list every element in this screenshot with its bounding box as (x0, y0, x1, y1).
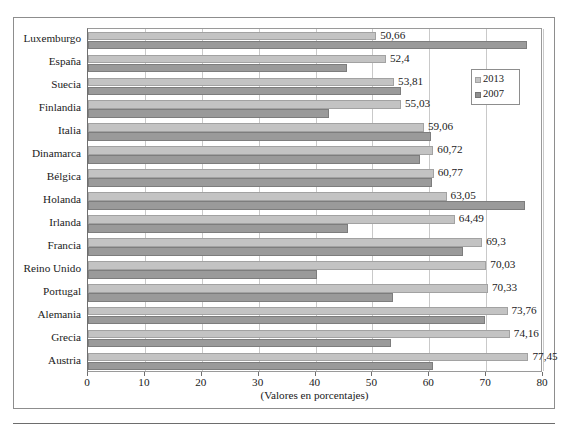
category-label: Finlandia (39, 102, 81, 113)
bar-2013 (88, 238, 482, 247)
bar-2013 (88, 169, 434, 178)
category-label: Portugal (43, 286, 81, 297)
gridline (543, 29, 544, 371)
category-label: España (49, 56, 81, 67)
bar-group: 59,06 (88, 121, 541, 144)
x-tick-label: 10 (138, 377, 149, 388)
legend-item-2013: 2013 (475, 72, 519, 87)
caption-divider (13, 423, 555, 424)
category-axis-labels: LuxemburgoEspañaSueciaFinlandiaItaliaDin… (0, 28, 84, 372)
bar-value-label: 74,16 (514, 328, 539, 339)
legend-swatch-2007-icon (475, 92, 481, 98)
bar-group: 50,66 (88, 29, 541, 52)
bar-2007 (88, 362, 433, 371)
bar-2007 (88, 132, 431, 141)
bar-2007 (88, 109, 329, 118)
bar-value-label: 73,76 (512, 305, 537, 316)
bar-group: 70,33 (88, 281, 541, 304)
chart-figure: 50,6652,453,8155,0359,0660,7260,7763,056… (0, 0, 569, 440)
bar-value-label: 55,03 (405, 98, 430, 109)
bar-2013 (88, 307, 508, 316)
bar-2007 (88, 201, 525, 210)
bar-2013 (88, 55, 386, 64)
category-label: Grecia (51, 332, 81, 343)
bar-2013 (88, 284, 488, 293)
legend-swatch-2013-icon (475, 77, 481, 83)
bar-2013 (88, 78, 394, 87)
x-axis-title: (Valores en porcentajes) (87, 390, 542, 401)
bar-2013 (88, 215, 455, 224)
bar-2013 (88, 32, 376, 41)
category-label: Francia (47, 240, 81, 251)
x-tick-label: 50 (366, 377, 377, 388)
source-caption (40, 428, 540, 439)
bar-value-label: 53,81 (398, 76, 423, 87)
bar-value-label: 70,33 (492, 282, 517, 293)
legend-item-2007: 2007 (475, 87, 519, 102)
bar-2007 (88, 41, 527, 50)
category-label: Luxemburgo (23, 33, 81, 44)
bar-value-label: 50,66 (380, 30, 405, 41)
bar-2007 (88, 316, 485, 325)
bar-2013 (88, 261, 486, 270)
bar-2007 (88, 270, 317, 279)
bar-value-label: 63,05 (451, 190, 476, 201)
category-label: Dinamarca (32, 148, 81, 159)
bar-value-label: 59,06 (428, 121, 453, 132)
bar-2007 (88, 293, 393, 302)
x-tick-label: 60 (423, 377, 434, 388)
x-tick-label: 0 (84, 377, 90, 388)
bar-2013 (88, 330, 510, 339)
bar-2013 (88, 192, 447, 201)
category-label: Italia (58, 125, 81, 136)
bar-group: 73,76 (88, 304, 541, 327)
bar-2013 (88, 123, 424, 132)
x-tick-label: 40 (309, 377, 320, 388)
chart-legend: 2013 2007 (471, 69, 520, 105)
x-tick-label: 30 (252, 377, 263, 388)
legend-label-2013: 2013 (483, 74, 504, 85)
category-label: Irlanda (49, 217, 81, 228)
legend-label-2007: 2007 (483, 89, 504, 100)
category-label: Suecia (51, 79, 81, 90)
bar-value-label: 69,3 (486, 236, 506, 247)
x-tick-label: 20 (195, 377, 206, 388)
bar-2007 (88, 155, 420, 164)
bar-group: 74,16 (88, 327, 541, 350)
bar-group: 77,45 (88, 350, 541, 373)
x-tick-label: 80 (536, 377, 547, 388)
category-label: Alemania (38, 309, 82, 320)
bar-value-label: 77,45 (532, 351, 557, 362)
bar-value-label: 60,72 (437, 144, 462, 155)
bar-group: 69,3 (88, 235, 541, 258)
bar-group: 64,49 (88, 212, 541, 235)
x-tick-label: 70 (480, 377, 491, 388)
category-label: Bélgica (47, 171, 81, 182)
bar-value-label: 64,49 (459, 213, 484, 224)
category-label: Holanda (43, 194, 81, 205)
bar-2007 (88, 224, 348, 233)
category-label: Reino Unido (24, 263, 82, 274)
bar-group: 70,03 (88, 258, 541, 281)
bar-2013 (88, 146, 433, 155)
bar-2013 (88, 100, 401, 109)
bar-value-label: 60,77 (438, 167, 463, 178)
bar-value-label: 52,4 (390, 53, 410, 64)
bar-group: 60,77 (88, 167, 541, 190)
bar-2007 (88, 87, 401, 96)
bar-2007 (88, 64, 347, 73)
bar-group: 60,72 (88, 144, 541, 167)
bar-group: 63,05 (88, 190, 541, 213)
bar-2013 (88, 353, 528, 362)
bar-value-label: 70,03 (490, 259, 515, 270)
bar-2007 (88, 247, 463, 256)
bar-2007 (88, 339, 391, 348)
bar-2007 (88, 178, 432, 187)
category-label: Austria (48, 355, 81, 366)
